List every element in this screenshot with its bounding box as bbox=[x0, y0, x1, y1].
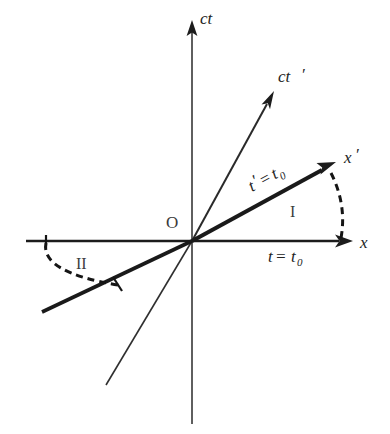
ct-axis-label: ct bbox=[200, 9, 214, 28]
simultaneity-rest-subscript: 0 bbox=[297, 256, 303, 268]
x-prime-axis-label: x bbox=[343, 148, 352, 167]
spacetime-diagram-figure: ct ct ′ x ′ x O t ′ = t 0 t = t 0 bbox=[0, 0, 390, 434]
x-axis-label: x bbox=[359, 233, 368, 252]
diagram-background bbox=[0, 0, 390, 434]
ct-prime-axis-label: ct bbox=[278, 67, 292, 86]
region-two-label: II bbox=[76, 255, 87, 272]
x-prime-axis-prime-mark: ′ bbox=[355, 145, 359, 164]
region-one-label: I bbox=[290, 203, 295, 220]
x-prime-axis-label-group: x ′ bbox=[343, 145, 359, 167]
simultaneity-rest-equals: = bbox=[275, 247, 286, 266]
origin-label: O bbox=[166, 213, 178, 232]
ct-prime-axis-prime-mark: ′ bbox=[301, 65, 305, 84]
minkowski-diagram-canvas: ct ct ′ x ′ x O t ′ = t 0 t = t 0 bbox=[0, 0, 390, 434]
